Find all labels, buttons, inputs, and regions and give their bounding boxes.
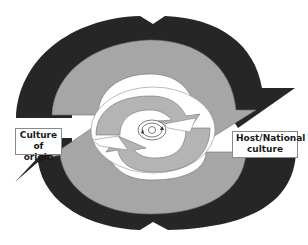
inner-arrows xyxy=(91,87,215,173)
cycle-diagram xyxy=(0,0,308,245)
host-national-culture-line1: Host/National xyxy=(236,133,294,144)
host-national-culture-line2: culture xyxy=(236,144,294,155)
host-national-culture-label: Host/National culture xyxy=(232,131,298,158)
culture-of-origin-line2: origin xyxy=(19,152,58,163)
culture-of-origin-line1: Culture of xyxy=(19,130,58,152)
culture-of-origin-label: Culture of origin xyxy=(15,128,62,155)
